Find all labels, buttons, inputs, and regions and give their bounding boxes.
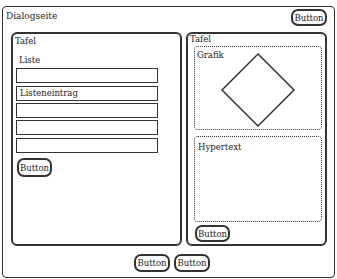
left-panel-button[interactable]: Button: [17, 158, 52, 177]
right-panel-title: Tafel: [190, 34, 211, 44]
list-item[interactable]: Listeneintrag: [16, 86, 158, 101]
list-item[interactable]: [16, 138, 158, 153]
diamond-graphic-icon: [220, 52, 296, 128]
footer-button-1[interactable]: Button: [134, 254, 170, 272]
left-panel-title: Tafel: [15, 36, 36, 46]
top-button[interactable]: Button: [291, 9, 327, 26]
list-item[interactable]: [16, 103, 158, 118]
list-label: Liste: [19, 55, 40, 65]
right-panel-button[interactable]: Button: [195, 225, 230, 242]
footer-button-2[interactable]: Button: [174, 254, 210, 272]
list-item[interactable]: [16, 68, 158, 83]
hypertext-label: Hypertext: [198, 142, 241, 152]
list-item[interactable]: [16, 120, 158, 135]
dialog-title: Dialogseite: [6, 11, 57, 21]
